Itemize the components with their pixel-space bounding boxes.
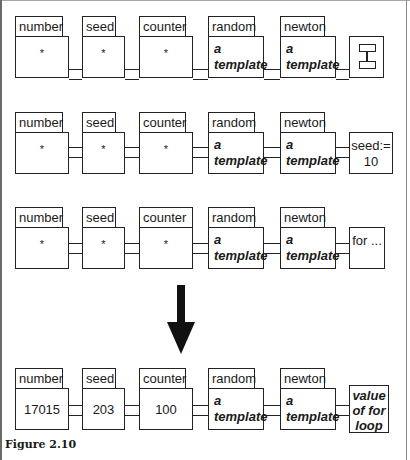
template-line-2: template xyxy=(286,248,335,264)
template-line-1: a xyxy=(286,393,335,409)
connector xyxy=(264,405,280,406)
tab-newton: newton xyxy=(280,368,325,388)
loop-value-line-1: value xyxy=(350,388,388,403)
icon-stem xyxy=(366,52,368,61)
tab-random: random xyxy=(208,112,255,132)
tab-newton: newton xyxy=(280,207,325,227)
cell-value: * xyxy=(16,143,68,155)
down-arrow-icon xyxy=(167,322,195,354)
template-line-1: a xyxy=(214,393,263,409)
connector xyxy=(69,147,82,148)
tab-newton: newton xyxy=(280,16,325,36)
cell-seed: * xyxy=(82,227,125,269)
loop-value-line-2: of for xyxy=(350,403,388,418)
connector xyxy=(69,405,82,406)
connector xyxy=(125,69,139,70)
connector xyxy=(336,69,349,70)
assignment-line-2: 10 xyxy=(350,154,392,170)
connector xyxy=(125,415,139,416)
connector xyxy=(125,253,139,254)
connector xyxy=(336,79,349,80)
connector xyxy=(264,157,280,158)
assignment-box: seed:= 10 xyxy=(349,132,393,174)
template-line-2: template xyxy=(214,153,263,169)
icon-bottom-rect xyxy=(359,61,376,69)
connector xyxy=(336,157,349,158)
connector xyxy=(69,79,82,80)
template-line-1: a xyxy=(286,232,335,248)
cell-number: 17015 xyxy=(15,388,69,430)
connector xyxy=(264,147,280,148)
cell-value: * xyxy=(140,238,192,250)
tab-random: random xyxy=(208,368,255,388)
connector xyxy=(69,243,82,244)
cell-value: * xyxy=(140,143,192,155)
cell-seed: 203 xyxy=(82,388,125,430)
connector xyxy=(264,243,280,244)
connector xyxy=(336,243,349,244)
tab-counter: counter xyxy=(139,368,186,388)
diagram-row-2: number * seed * counter * random atempla… xyxy=(0,112,410,184)
loop-value-line-3: loop xyxy=(350,418,388,433)
cell-counter: * xyxy=(139,132,193,174)
cell-number: * xyxy=(15,36,69,78)
template-line-2: template xyxy=(286,409,335,425)
connector xyxy=(193,69,208,70)
connector xyxy=(125,405,139,406)
tab-number: number xyxy=(15,16,63,36)
connector xyxy=(264,253,280,254)
cell-newton: atemplate xyxy=(280,36,336,78)
connector xyxy=(336,253,349,254)
tab-counter: counter xyxy=(139,112,186,132)
connector xyxy=(125,157,139,158)
tab-seed: seed xyxy=(82,112,116,132)
template-line-2: template xyxy=(214,57,263,73)
connector xyxy=(193,147,208,148)
template-line-2: template xyxy=(214,248,263,264)
connector xyxy=(193,415,208,416)
assignment-line-1: seed:= xyxy=(350,138,392,154)
loop-value-box: value of for loop xyxy=(349,385,389,433)
connector xyxy=(264,79,280,80)
icon-top-rect xyxy=(359,44,376,52)
cell-counter: * xyxy=(139,36,193,78)
connector xyxy=(264,415,280,416)
cell-counter: * xyxy=(139,227,193,269)
connector xyxy=(193,253,208,254)
cell-value: 17015 xyxy=(16,402,68,417)
connector xyxy=(193,405,208,406)
for-loop-box: for ... xyxy=(349,227,385,269)
cell-value: * xyxy=(16,47,68,59)
cell-random: atemplate xyxy=(208,227,264,269)
cell-number: * xyxy=(15,227,69,269)
template-line-1: a xyxy=(214,137,263,153)
template-line-1: a xyxy=(214,232,263,248)
template-line-1: a xyxy=(286,137,335,153)
cell-value: * xyxy=(140,47,192,59)
figure-caption: Figure 2.10 xyxy=(5,438,76,451)
tab-number: number xyxy=(15,112,63,132)
template-line-2: template xyxy=(286,57,335,73)
tab-seed: seed xyxy=(82,207,116,227)
down-arrow-shaft xyxy=(177,285,185,327)
cell-newton: atemplate xyxy=(280,388,336,430)
cell-seed: * xyxy=(82,36,125,78)
for-loop-label: for ... xyxy=(350,233,384,249)
diagram-row-3: number * seed * counter * random atempla… xyxy=(0,207,410,279)
frame-top-border xyxy=(0,0,410,1)
cell-random: atemplate xyxy=(208,36,264,78)
tab-number: number xyxy=(15,207,63,227)
cell-random: atemplate xyxy=(208,388,264,430)
connector xyxy=(336,415,349,416)
tab-random: random xyxy=(208,16,255,36)
connector xyxy=(69,69,82,70)
connector xyxy=(193,157,208,158)
diagram-row-1: number * seed * counter * random atempla… xyxy=(0,16,410,88)
tab-counter: counter xyxy=(139,207,193,227)
connector xyxy=(125,79,139,80)
tab-newton: newton xyxy=(280,112,325,132)
template-line-2: template xyxy=(286,153,335,169)
template-line-1: a xyxy=(286,41,335,57)
stack-frame-icon xyxy=(349,36,384,78)
tab-seed: seed xyxy=(82,16,116,36)
